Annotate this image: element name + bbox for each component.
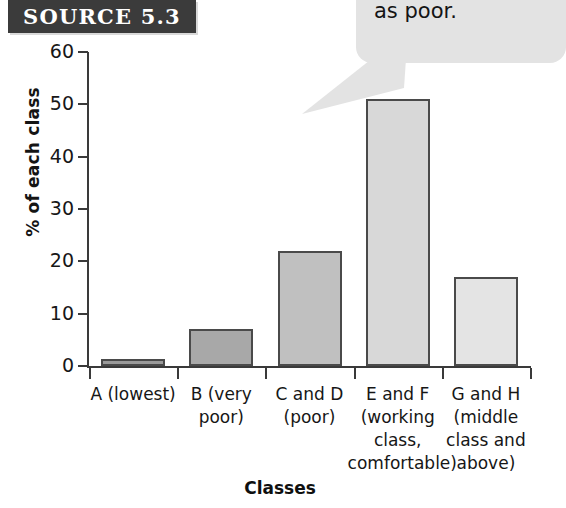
x-tick: [354, 368, 356, 379]
category-label: A (lowest): [83, 383, 183, 406]
callout-line-2: as poor.: [374, 0, 552, 26]
category-label: G and H (middle class and above): [436, 383, 536, 475]
y-tick: [78, 103, 88, 105]
y-tick-label: 30: [34, 199, 74, 218]
x-tick: [177, 368, 179, 379]
y-tick: [78, 260, 88, 262]
y-tick-label: 60: [34, 42, 74, 61]
y-tick: [78, 156, 88, 158]
bar: [454, 277, 518, 366]
y-tick-label: 40: [34, 147, 74, 166]
x-tick: [89, 368, 91, 379]
x-tick: [442, 368, 444, 379]
callout-bubble: were clas as poor.: [356, 0, 566, 63]
y-tick: [78, 365, 88, 367]
y-tick-label-wrap: 0: [28, 356, 74, 375]
y-tick-label: 50: [34, 94, 74, 113]
y-tick-label-wrap: 60: [28, 42, 74, 61]
x-tick: [265, 368, 267, 379]
y-tick-label-wrap: 10: [28, 304, 74, 323]
y-tick: [78, 208, 88, 210]
y-tick-label-wrap: 20: [28, 251, 74, 270]
y-tick-label-wrap: 50: [28, 94, 74, 113]
x-axis-title: Classes: [0, 478, 560, 498]
category-label: E and F (working class, comfortable): [348, 383, 448, 475]
y-tick: [78, 313, 88, 315]
bar: [101, 359, 165, 366]
y-tick-label: 20: [34, 251, 74, 270]
bar: [189, 329, 253, 366]
bar: [366, 99, 430, 366]
category-label: C and D (poor): [259, 383, 359, 429]
category-label: B (very poor): [171, 383, 271, 429]
y-tick: [78, 51, 88, 53]
y-tick-label: 0: [34, 356, 74, 375]
y-tick-label-wrap: 30: [28, 199, 74, 218]
x-tick: [530, 368, 532, 379]
y-axis-line: [87, 52, 89, 368]
bar: [278, 251, 342, 366]
y-tick-label-wrap: 40: [28, 147, 74, 166]
x-axis-line: [87, 366, 531, 368]
y-tick-label: 10: [34, 304, 74, 323]
